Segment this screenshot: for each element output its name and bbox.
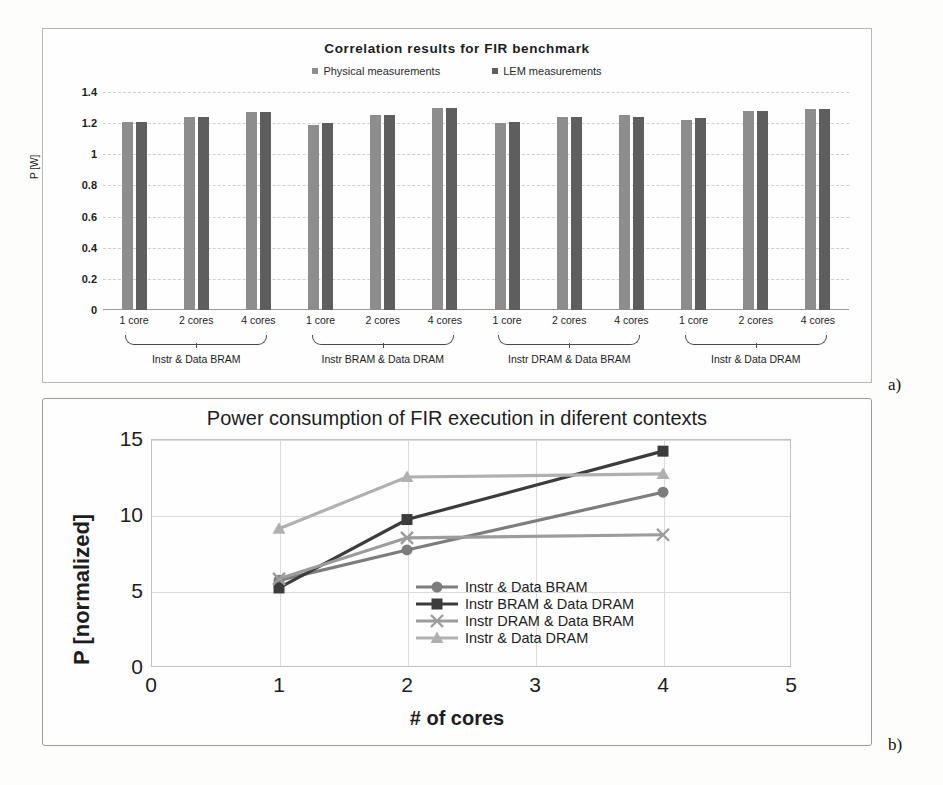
data-point-marker-square — [658, 446, 669, 457]
panel-a-legend: Physical measurements LEM measurements — [43, 65, 871, 77]
legend-label: Instr & Data BRAM — [465, 579, 587, 595]
x-tick-label: 1 core — [665, 314, 723, 326]
legend-item: Instr DRAM & Data BRAM — [415, 613, 634, 629]
panel-b-y-tick-labels: 051015 — [83, 439, 143, 667]
bar-cluster — [246, 92, 271, 310]
panel-a-bars — [103, 92, 849, 310]
bar-cluster — [681, 92, 706, 310]
panel-a-x-tick-labels: 1 core2 cores4 cores1 core2 cores4 cores… — [103, 314, 849, 326]
bar — [136, 122, 147, 310]
x-tick-label: 3 — [529, 673, 541, 697]
x-tick-label: 4 cores — [789, 314, 847, 326]
x-tick-label: 4 cores — [229, 314, 287, 326]
panel-b-legend: Instr & Data BRAMInstr BRAM & Data DRAMI… — [415, 579, 634, 646]
x-tick-group: 1 core2 cores4 cores — [103, 314, 290, 326]
legend-item: Instr & Data DRAM — [415, 630, 634, 646]
bar-cluster — [495, 92, 520, 310]
bar — [819, 109, 830, 310]
x-tick-label: 1 core — [292, 314, 350, 326]
figure-page: Correlation results for FIR benchmark Ph… — [0, 0, 943, 785]
group-bracket — [663, 335, 850, 349]
bar — [509, 122, 520, 310]
y-tick-label: 5 — [131, 579, 143, 603]
bar-cluster — [308, 92, 333, 310]
x-tick-label: 1 — [273, 673, 285, 697]
group-label: Instr & Data BRAM — [103, 353, 290, 365]
legend-item-physical-measurements: Physical measurements — [312, 65, 440, 77]
group-bracket — [290, 335, 477, 349]
bracket-stem — [756, 343, 757, 348]
bar — [695, 118, 706, 310]
bar-group — [476, 92, 663, 310]
bar — [370, 115, 381, 310]
y-tick-label: 15 — [120, 427, 143, 451]
bar-group — [290, 92, 477, 310]
x-tick-label: 1 core — [478, 314, 536, 326]
panel-b-x-tick-labels: 012345 — [151, 673, 791, 703]
y-tick-label: 1 — [91, 148, 97, 160]
bar — [184, 117, 195, 310]
bar — [495, 123, 506, 310]
legend-item: Instr & Data BRAM — [415, 579, 634, 595]
legend-item-lem-measurements: LEM measurements — [492, 65, 601, 77]
y-tick-label: 0.2 — [82, 273, 97, 285]
panel-b-tag: b) — [888, 735, 902, 755]
legend-label: Instr BRAM & Data DRAM — [465, 596, 634, 612]
legend-label: Instr DRAM & Data BRAM — [465, 613, 634, 629]
bar — [122, 122, 133, 310]
y-tick-label: 0.4 — [82, 242, 97, 254]
legend-marker-icon — [415, 580, 459, 594]
panel-b-x-axis-title: # of cores — [43, 707, 871, 730]
x-tick-label: 0 — [145, 673, 157, 697]
y-tick-label: 0 — [131, 655, 143, 679]
x-tick-label: 2 cores — [727, 314, 785, 326]
bar — [557, 117, 568, 310]
x-tick-group: 1 core2 cores4 cores — [663, 314, 850, 326]
panel-a-y-axis-title: P [W] — [29, 155, 40, 179]
bracket-stem — [383, 343, 384, 348]
group-label: Instr & Data DRAM — [663, 353, 850, 365]
data-point-marker-circle — [402, 544, 413, 555]
legend-marker-icon — [415, 597, 459, 611]
bar — [198, 117, 209, 310]
y-tick-label: 0.8 — [82, 179, 97, 191]
legend-swatch-icon — [312, 68, 318, 74]
group-bracket — [103, 335, 290, 349]
bar — [308, 125, 319, 310]
bar — [681, 120, 692, 310]
data-point-marker-circle — [432, 582, 443, 593]
x-tick-label: 4 cores — [416, 314, 474, 326]
data-point-marker-square — [432, 599, 443, 610]
bar — [805, 109, 816, 310]
legend-item: Instr BRAM & Data DRAM — [415, 596, 634, 612]
bar — [743, 111, 754, 310]
group-label: Instr BRAM & Data DRAM — [290, 353, 477, 365]
bar — [446, 108, 457, 310]
group-label: Instr DRAM & Data BRAM — [476, 353, 663, 365]
legend-swatch-icon — [492, 68, 498, 74]
panel-a-tag: a) — [888, 375, 901, 395]
group-bracket — [476, 335, 663, 349]
x-tick-label: 2 cores — [354, 314, 412, 326]
bar — [322, 123, 333, 310]
legend-label: LEM measurements — [503, 65, 601, 77]
data-point-marker-square — [402, 514, 413, 525]
y-tick-label: 1.2 — [82, 117, 97, 129]
bar-cluster — [122, 92, 147, 310]
bar — [757, 111, 768, 310]
bar-cluster — [432, 92, 457, 310]
panel-a-bar-chart: Correlation results for FIR benchmark Ph… — [42, 28, 872, 383]
x-tick-label: 2 cores — [540, 314, 598, 326]
panel-b-line-chart: Power consumption of FIR execution in di… — [42, 398, 872, 746]
bar-group — [103, 92, 290, 310]
bar-cluster — [370, 92, 395, 310]
bar — [619, 115, 630, 310]
legend-marker-icon — [415, 614, 459, 628]
legend-marker-icon — [415, 631, 459, 645]
y-tick-label: 10 — [120, 503, 143, 527]
panel-a-group-labels: Instr & Data BRAMInstr BRAM & Data DRAMI… — [103, 353, 849, 365]
x-tick-label: 5 — [785, 673, 797, 697]
x-tick-group: 1 core2 cores4 cores — [290, 314, 477, 326]
y-tick-label: 1.4 — [82, 86, 97, 98]
panel-a-title: Correlation results for FIR benchmark — [43, 41, 871, 56]
